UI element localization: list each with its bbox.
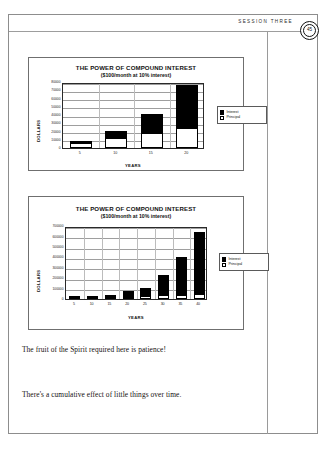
category-gridline xyxy=(84,228,85,299)
x-axis-label: YEARS xyxy=(62,163,204,168)
category-gridline xyxy=(173,228,174,299)
x-axis-tick: 10 xyxy=(83,303,101,307)
x-axis-tick: 5 xyxy=(62,152,98,156)
bar-segment-interest xyxy=(140,288,151,296)
chart-subtitle: ($100/month at 10% interest) xyxy=(29,213,243,219)
x-axis-tick: 15 xyxy=(133,152,169,156)
category-gridline xyxy=(99,84,100,148)
y-axis-tick: 700000 xyxy=(29,225,64,228)
chart-legend: Interest Principal xyxy=(217,106,267,124)
y-axis-tick: 10000 xyxy=(29,139,61,142)
bar-segment-principal xyxy=(140,296,151,299)
plot-area xyxy=(62,83,204,149)
bar-segment-principal xyxy=(70,143,92,148)
x-axis-tick: 20 xyxy=(118,303,136,307)
y-axis-tick: 20000 xyxy=(29,131,61,134)
y-axis-tick: 70000 xyxy=(29,89,61,92)
x-axis-tick: 30 xyxy=(154,303,172,307)
y-axis-tick: 200000 xyxy=(29,277,64,280)
bar-segment-interest xyxy=(123,291,134,296)
legend-swatch-principal-icon xyxy=(222,263,226,267)
category-gridline xyxy=(190,228,191,299)
category-gridline xyxy=(155,228,156,299)
bar-segment-interest xyxy=(69,296,80,298)
category-gridline xyxy=(137,228,138,299)
x-axis-label: YEARS xyxy=(65,315,207,320)
bar-segment-interest xyxy=(87,296,98,298)
running-head-label: SESSION THREE xyxy=(238,19,293,24)
chart-legend: Interest Principal xyxy=(219,253,269,271)
legend-label-principal: Principal xyxy=(226,116,240,120)
y-axis-tick: 0 xyxy=(29,147,61,150)
chart-container-20-year: THE POWER OF COMPOUND INTEREST ($100/mon… xyxy=(28,57,244,171)
legend-swatch-interest-icon xyxy=(220,110,224,114)
legend-item-interest: Interest xyxy=(222,257,266,261)
y-axis-tick: 60000 xyxy=(29,98,61,101)
bar-segment-interest xyxy=(70,141,92,143)
x-axis-tick: 35 xyxy=(172,303,190,307)
body-line-2: There's a cumulative effect of little th… xyxy=(22,390,181,399)
x-axis-tick: 5 xyxy=(65,303,83,307)
bar-segment-interest xyxy=(105,131,127,138)
x-axis-tick: 10 xyxy=(98,152,134,156)
y-axis-tick: 80000 xyxy=(29,81,61,84)
legend-swatch-principal-icon xyxy=(220,116,224,120)
y-axis-tick: 30000 xyxy=(29,122,61,125)
gridline xyxy=(63,84,203,85)
bar-segment-principal xyxy=(176,295,187,299)
margin-divider-rule xyxy=(267,31,268,434)
legend-swatch-interest-icon xyxy=(222,257,226,261)
body-line-1: The fruit of the Spirit required here is… xyxy=(22,345,166,354)
bar-segment-principal xyxy=(105,138,127,148)
gridline xyxy=(66,238,206,239)
gridline xyxy=(66,228,206,229)
legend-label-interest: Interest xyxy=(228,258,240,262)
y-axis-tick: 300000 xyxy=(29,267,64,270)
y-axis-tick: 600000 xyxy=(29,236,64,239)
bar-segment-interest xyxy=(176,85,198,128)
category-gridline xyxy=(102,228,103,299)
bar-segment-interest xyxy=(105,295,116,297)
chart-container-40-year: THE POWER OF COMPOUND INTEREST ($100/mon… xyxy=(28,196,244,330)
bar-segment-principal xyxy=(105,297,116,299)
category-gridline xyxy=(134,84,135,148)
x-axis-tick: 20 xyxy=(169,152,205,156)
bar-segment-principal xyxy=(176,128,198,148)
y-axis-tick: 500000 xyxy=(29,246,64,249)
x-axis-tick: 25 xyxy=(136,303,154,307)
bar-segment-interest xyxy=(158,275,169,295)
y-axis-tick: 400000 xyxy=(29,256,64,259)
chart-title: THE POWER OF COMPOUND INTEREST xyxy=(29,64,243,71)
gridline xyxy=(66,249,206,250)
x-axis-tick: 15 xyxy=(101,303,119,307)
running-head-rule xyxy=(9,31,306,32)
bar-segment-principal xyxy=(123,297,134,300)
page-number-badge: 45 xyxy=(300,21,319,40)
plot-area xyxy=(65,227,207,300)
legend-item-principal: Principal xyxy=(222,263,266,267)
y-axis-tick: 50000 xyxy=(29,106,61,109)
legend-item-interest: Interest xyxy=(220,110,264,114)
legend-label-principal: Principal xyxy=(228,263,242,267)
x-axis-tick: 40 xyxy=(189,303,207,307)
bar-segment-interest xyxy=(194,232,205,294)
y-axis-tick: 0 xyxy=(29,298,64,301)
page-number: 45 xyxy=(303,24,317,38)
bar-segment-principal xyxy=(158,295,169,299)
bar-segment-principal xyxy=(194,294,205,299)
bar-segment-principal xyxy=(141,133,163,148)
category-gridline xyxy=(170,84,171,148)
bar-segment-interest xyxy=(176,257,187,295)
legend-item-principal: Principal xyxy=(220,116,264,120)
y-axis-tick: 100000 xyxy=(29,288,64,291)
legend-label-interest: Interest xyxy=(226,111,238,115)
chart-title: THE POWER OF COMPOUND INTEREST xyxy=(29,205,243,212)
bar-segment-interest xyxy=(141,114,163,133)
y-axis-tick: 40000 xyxy=(29,114,61,117)
chart-subtitle: ($100/month at 10% interest) xyxy=(29,72,243,78)
category-gridline xyxy=(119,228,120,299)
